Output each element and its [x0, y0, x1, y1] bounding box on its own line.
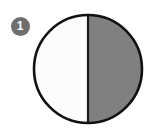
figure-canvas: 1 [0, 0, 148, 133]
sector-right-shaded [88, 15, 142, 123]
half-shaded-circle-diagram [33, 12, 145, 127]
step-number-label: 1 [17, 20, 24, 32]
sector-left-unshaded [34, 15, 88, 123]
circle-svg [33, 12, 145, 127]
step-number-badge: 1 [11, 17, 30, 36]
